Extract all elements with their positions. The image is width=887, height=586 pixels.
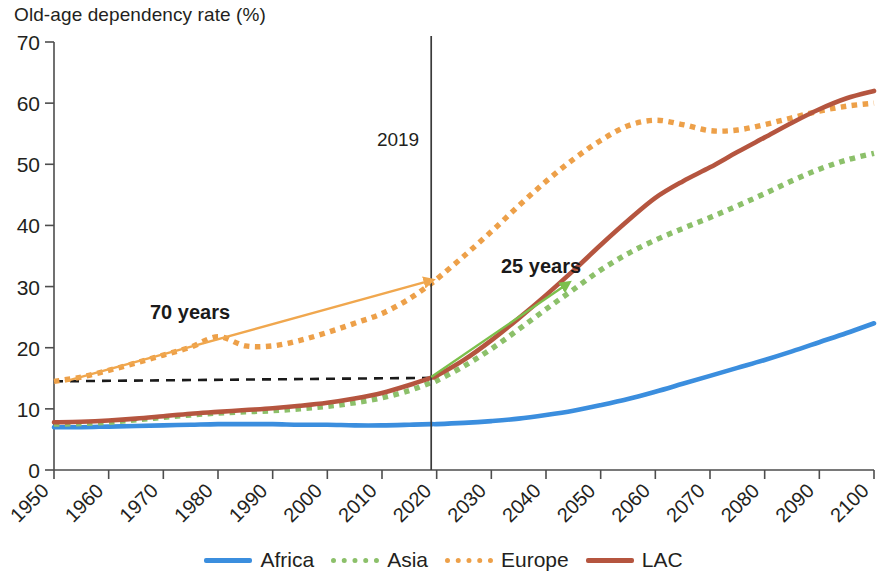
x-tick-label: 2060	[607, 479, 654, 526]
legend-item-asia[interactable]: Asia	[331, 548, 428, 572]
x-tick-label: 2000	[279, 479, 326, 526]
legend-item-lac[interactable]: LAC	[586, 548, 683, 572]
legend-swatch-europe-icon	[445, 558, 493, 563]
chart-legend: AfricaAsiaEuropeLAC	[0, 548, 887, 572]
legend-item-europe[interactable]: Europe	[445, 548, 569, 572]
legend-label: Asia	[387, 548, 428, 572]
legend-swatch-lac-icon	[586, 558, 634, 563]
x-tick-label: 2050	[552, 479, 599, 526]
y-tick-label: 40	[17, 214, 40, 237]
callout-label: 70 years	[150, 301, 230, 323]
x-tick-label: 1970	[115, 479, 162, 526]
series-line-africa	[54, 323, 874, 427]
x-tick-label: 1980	[170, 479, 217, 526]
x-tick-label: 1950	[6, 479, 53, 526]
x-tick-label: 2020	[388, 479, 435, 526]
y-tick-labels: 010203040506070	[17, 31, 40, 482]
y-tick-label: 50	[17, 153, 40, 176]
x-tick-label: 1960	[60, 479, 107, 526]
series-line-asia	[54, 153, 874, 424]
vertical-marker-group: 2019	[377, 36, 431, 470]
legend-item-africa[interactable]: Africa	[204, 548, 314, 572]
x-tick-label: 2080	[716, 479, 763, 526]
callout-arrow	[65, 280, 431, 381]
y-tick-label: 30	[17, 276, 40, 299]
x-tick-labels: 1950196019701980199020002010202020302040…	[6, 479, 873, 526]
legend-label: Africa	[260, 548, 314, 572]
line-chart: 2019 70 years25 years 010203040506070 19…	[0, 0, 887, 586]
x-tick-label: 2100	[826, 479, 873, 526]
x-tick-label: 2070	[662, 479, 709, 526]
chart-page: Old-age dependency rate (%) 2019 70 year…	[0, 0, 887, 586]
legend-swatch-asia-icon	[331, 558, 379, 563]
x-tick-label: 2040	[498, 479, 545, 526]
series-group	[54, 91, 874, 427]
reference-line-group	[54, 378, 431, 382]
callout-arrow	[431, 284, 568, 378]
x-tick-label: 2090	[771, 479, 818, 526]
legend-label: Europe	[501, 548, 569, 572]
y-tick-label: 60	[17, 92, 40, 115]
x-tick-label: 2030	[443, 479, 490, 526]
y-tick-label: 20	[17, 337, 40, 360]
y-tick-label: 0	[28, 459, 40, 482]
callout-label: 25 years	[501, 255, 581, 277]
reference-dashed-line	[54, 378, 431, 382]
x-tick-label: 1990	[224, 479, 271, 526]
y-tick-label: 10	[17, 398, 40, 421]
year-marker-label: 2019	[377, 129, 419, 150]
legend-swatch-africa-icon	[204, 558, 252, 563]
legend-label: LAC	[642, 548, 683, 572]
y-tick-label: 70	[17, 31, 40, 54]
x-tick-label: 2010	[334, 479, 381, 526]
